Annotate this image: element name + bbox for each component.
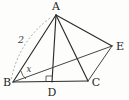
angle-b-label: x — [27, 64, 32, 74]
segment-ac — [56, 15, 88, 81]
segment-ad — [52, 15, 56, 82]
segment-ae — [56, 15, 112, 46]
segment-bc — [13, 81, 88, 82]
side-ab-length-label: 2 — [17, 34, 24, 45]
vertex-label-c: C — [92, 76, 100, 89]
vertex-label-b: B — [3, 76, 11, 89]
vertex-label-e: E — [116, 40, 124, 53]
geometry-canvas: A B C D E 2 x — [0, 0, 129, 100]
vertex-label-a: A — [51, 0, 61, 13]
segment-ab — [13, 15, 56, 82]
vertex-label-d: D — [48, 86, 57, 99]
geometry-figure: A B C D E 2 x — [0, 0, 129, 100]
